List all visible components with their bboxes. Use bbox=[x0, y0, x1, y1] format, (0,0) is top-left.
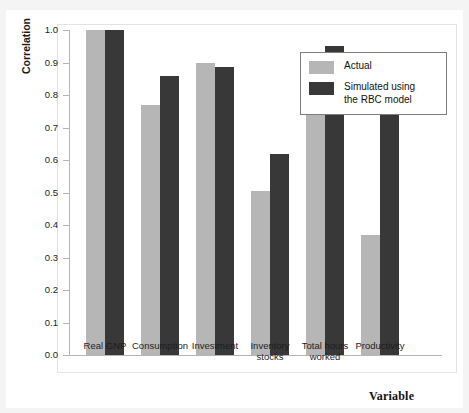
figure-canvas: Correlation 1.00.90.80.70.60.50.40.30.20… bbox=[6, 10, 463, 408]
bar-group bbox=[141, 30, 179, 355]
chart-legend: Actual Simulated using the RBC model bbox=[300, 52, 447, 115]
legend-item-actual: Actual bbox=[309, 60, 438, 74]
bar bbox=[196, 63, 215, 356]
y-tick-label: 1.0 bbox=[32, 24, 58, 35]
y-tick-label: 0.6 bbox=[32, 154, 58, 165]
y-tick-label: 0.5 bbox=[32, 187, 58, 198]
y-axis-line bbox=[69, 30, 70, 356]
legend-label-simulated: Simulated using the RBC model bbox=[344, 81, 415, 106]
x-axis-title: Variable bbox=[369, 389, 414, 404]
bar bbox=[270, 154, 289, 356]
bar bbox=[251, 191, 270, 355]
bar bbox=[380, 74, 399, 355]
legend-swatch-actual bbox=[309, 61, 334, 74]
y-tick-mark bbox=[63, 160, 69, 161]
y-tick-label: 0.0 bbox=[32, 349, 58, 360]
y-tick-mark bbox=[63, 225, 69, 226]
bar-group bbox=[251, 30, 289, 355]
y-tick-mark bbox=[63, 323, 69, 324]
y-tick-mark bbox=[63, 63, 69, 64]
y-axis-title: Correlation bbox=[20, 4, 32, 88]
x-tick-label: Productivity bbox=[337, 340, 423, 351]
legend-swatch-simulated bbox=[309, 82, 334, 95]
y-tick-label: 0.9 bbox=[32, 57, 58, 68]
bar bbox=[141, 105, 160, 355]
y-tick-mark bbox=[63, 30, 69, 31]
bar bbox=[306, 77, 325, 355]
y-tick-mark bbox=[63, 355, 69, 356]
y-tick-mark bbox=[63, 128, 69, 129]
y-tick-label: 0.8 bbox=[32, 89, 58, 100]
bar bbox=[215, 67, 234, 355]
y-tick-label: 0.1 bbox=[32, 317, 58, 328]
bar-group bbox=[196, 30, 234, 355]
chart-page: Correlation 1.00.90.80.70.60.50.40.30.20… bbox=[0, 0, 469, 413]
bar-group bbox=[86, 30, 124, 355]
y-tick-label: 0.2 bbox=[32, 284, 58, 295]
y-tick-label: 0.4 bbox=[32, 219, 58, 230]
y-tick-label: 0.7 bbox=[32, 122, 58, 133]
y-tick-mark bbox=[63, 290, 69, 291]
bar bbox=[361, 235, 380, 355]
bar bbox=[86, 30, 105, 355]
bar bbox=[105, 30, 124, 355]
y-tick-mark bbox=[63, 193, 69, 194]
y-tick-label: 0.3 bbox=[32, 252, 58, 263]
y-tick-mark bbox=[63, 95, 69, 96]
y-tick-mark bbox=[63, 258, 69, 259]
legend-item-simulated: Simulated using the RBC model bbox=[309, 81, 438, 106]
bar bbox=[160, 76, 179, 356]
legend-label-actual: Actual bbox=[344, 60, 372, 73]
